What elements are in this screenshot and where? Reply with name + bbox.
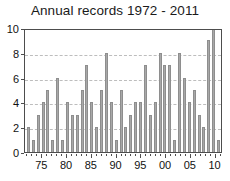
x-minor-tick-1984 bbox=[86, 154, 87, 156]
bar-2010 bbox=[212, 29, 215, 152]
x-minor-tick-2000 bbox=[165, 154, 166, 156]
bar-1972 bbox=[27, 127, 30, 152]
y-tick-label-8: 8 bbox=[13, 48, 19, 60]
y-tick-label-4: 4 bbox=[13, 97, 19, 109]
bar-2009 bbox=[207, 40, 210, 152]
x-minor-tick-1996 bbox=[145, 154, 146, 156]
x-minor-tick-2003 bbox=[180, 154, 181, 156]
bar-1996 bbox=[144, 65, 147, 152]
x-minor-tick-1997 bbox=[150, 154, 151, 156]
x-minor-tick-1981 bbox=[71, 154, 72, 156]
bar-1982 bbox=[76, 115, 79, 152]
y-tick-label-2: 2 bbox=[13, 122, 19, 134]
bar-1985 bbox=[90, 102, 93, 152]
y-tick-label-6: 6 bbox=[13, 73, 19, 85]
x-minor-tick-1972 bbox=[26, 154, 27, 156]
bar-1995 bbox=[139, 102, 142, 152]
x-tick-label-00: 00 bbox=[159, 159, 171, 171]
x-axis: 7580859095000510 bbox=[24, 154, 222, 181]
bar-2005 bbox=[188, 102, 191, 152]
x-tick-label-85: 85 bbox=[85, 159, 97, 171]
x-tick-label-80: 80 bbox=[60, 159, 72, 171]
x-minor-tick-1975 bbox=[41, 154, 42, 156]
x-minor-tick-1993 bbox=[130, 154, 131, 156]
bar-2000 bbox=[163, 65, 166, 152]
y-tick-label-10: 10 bbox=[7, 23, 19, 35]
bar-2003 bbox=[178, 53, 181, 152]
bar-1993 bbox=[129, 115, 132, 152]
bar-1974 bbox=[37, 115, 40, 152]
x-tick-label-05: 05 bbox=[184, 159, 196, 171]
bar-1976 bbox=[46, 90, 49, 152]
x-minor-tick-1979 bbox=[61, 154, 62, 156]
x-minor-tick-1994 bbox=[135, 154, 136, 156]
x-tick-label-95: 95 bbox=[134, 159, 146, 171]
y-tick-label-0: 0 bbox=[13, 147, 19, 159]
x-minor-tick-1983 bbox=[81, 154, 82, 156]
x-minor-tick-1986 bbox=[96, 154, 97, 156]
x-minor-tick-1976 bbox=[46, 154, 47, 156]
bar-1977 bbox=[51, 140, 54, 152]
bar-2008 bbox=[202, 127, 205, 152]
bar-1975 bbox=[42, 102, 45, 152]
bar-2006 bbox=[193, 90, 196, 152]
bar-2007 bbox=[198, 115, 201, 152]
bar-1994 bbox=[134, 102, 137, 152]
bar-1988 bbox=[105, 53, 108, 152]
bar-series bbox=[25, 30, 221, 152]
x-minor-tick-2006 bbox=[195, 154, 196, 156]
chart-figure: Annual records 1972 - 2011 0246810 75808… bbox=[0, 0, 230, 181]
x-minor-tick-2001 bbox=[170, 154, 171, 156]
x-minor-tick-1977 bbox=[51, 154, 52, 156]
x-minor-tick-2004 bbox=[185, 154, 186, 156]
bar-2011 bbox=[217, 140, 220, 152]
bar-1986 bbox=[95, 127, 98, 152]
plot-area bbox=[24, 29, 222, 153]
bar-1987 bbox=[100, 90, 103, 152]
x-minor-tick-2011 bbox=[220, 154, 221, 156]
chart-title: Annual records 1972 - 2011 bbox=[0, 3, 230, 18]
x-tick-label-90: 90 bbox=[109, 159, 121, 171]
x-minor-tick-1988 bbox=[106, 154, 107, 156]
bar-1973 bbox=[32, 140, 35, 152]
x-minor-tick-1980 bbox=[66, 154, 67, 156]
bar-1999 bbox=[159, 53, 162, 152]
x-minor-tick-1985 bbox=[91, 154, 92, 156]
bar-1981 bbox=[71, 115, 74, 152]
bar-1983 bbox=[81, 90, 84, 152]
x-minor-tick-2009 bbox=[210, 154, 211, 156]
bar-1998 bbox=[154, 102, 157, 152]
bar-1989 bbox=[110, 102, 113, 152]
bar-1984 bbox=[85, 65, 88, 152]
bar-1980 bbox=[66, 102, 69, 152]
y-axis: 0246810 bbox=[0, 29, 24, 153]
bar-2002 bbox=[173, 140, 176, 152]
bar-1990 bbox=[115, 140, 118, 152]
x-minor-tick-1998 bbox=[155, 154, 156, 156]
x-minor-tick-1974 bbox=[36, 154, 37, 156]
x-tick-label-75: 75 bbox=[35, 159, 47, 171]
bar-slot bbox=[216, 30, 221, 152]
x-minor-tick-1989 bbox=[111, 154, 112, 156]
bar-1978 bbox=[56, 78, 59, 152]
x-minor-tick-1990 bbox=[116, 154, 117, 156]
x-minor-tick-1987 bbox=[101, 154, 102, 156]
x-minor-tick-2008 bbox=[205, 154, 206, 156]
bar-2001 bbox=[168, 65, 171, 152]
x-minor-tick-1992 bbox=[125, 154, 126, 156]
x-minor-tick-1982 bbox=[76, 154, 77, 156]
x-minor-tick-1995 bbox=[140, 154, 141, 156]
x-minor-tick-1999 bbox=[160, 154, 161, 156]
bar-2004 bbox=[183, 78, 186, 152]
x-minor-tick-2002 bbox=[175, 154, 176, 156]
x-minor-tick-2007 bbox=[200, 154, 201, 156]
x-minor-tick-1978 bbox=[56, 154, 57, 156]
bar-1992 bbox=[124, 127, 127, 152]
x-minor-tick-2010 bbox=[215, 154, 216, 156]
bar-1991 bbox=[120, 90, 123, 152]
x-minor-tick-2005 bbox=[190, 154, 191, 156]
x-minor-tick-1973 bbox=[31, 154, 32, 156]
x-minor-tick-1991 bbox=[121, 154, 122, 156]
bar-1979 bbox=[61, 140, 64, 152]
bar-1997 bbox=[149, 115, 152, 152]
